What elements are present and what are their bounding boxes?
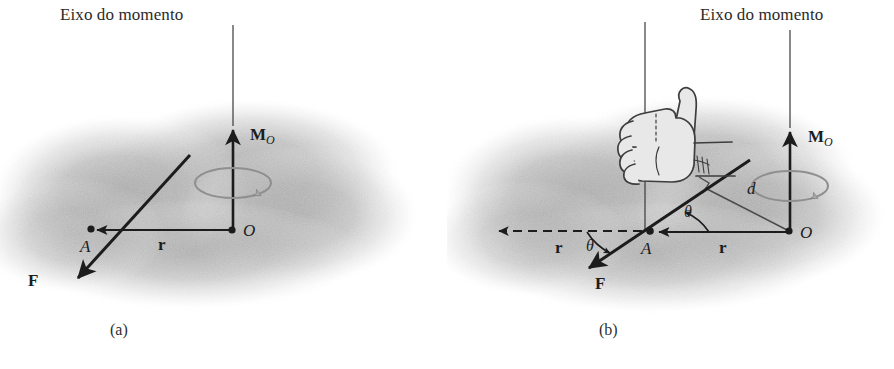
point-a-label-a: A bbox=[80, 238, 90, 255]
panel-a-graphics bbox=[0, 0, 447, 369]
point-a-label-b: A bbox=[641, 240, 651, 257]
panel-a: Eixo do momento MO F r A O (a) bbox=[0, 0, 447, 369]
point-a-marker bbox=[646, 227, 654, 235]
moment-vector-label-b: MO bbox=[808, 128, 833, 148]
panel-a-caption: (a) bbox=[110, 322, 128, 338]
shaded-plane bbox=[0, 98, 420, 310]
moment-vector-label-a: MO bbox=[250, 126, 275, 146]
position-vector-label-b: r bbox=[719, 239, 727, 256]
force-vector-label-b: F bbox=[595, 275, 605, 292]
point-o-label-b: O bbox=[800, 224, 812, 241]
force-vector-label-a: F bbox=[28, 272, 38, 289]
point-o-marker bbox=[785, 227, 792, 234]
point-o-marker bbox=[228, 226, 235, 233]
moment-arm-label-b: d bbox=[747, 180, 756, 197]
moment-vector-symbol-a: M bbox=[250, 125, 266, 144]
point-a-marker bbox=[87, 225, 94, 232]
position-vector-label-a: r bbox=[158, 236, 166, 253]
axis-title-a: Eixo do momento bbox=[60, 6, 183, 23]
moment-vector-subscript-a: O bbox=[266, 133, 275, 147]
moment-axis-figure: Eixo do momento MO F r A O (a) bbox=[0, 0, 894, 369]
axis-title-b: Eixo do momento bbox=[700, 6, 823, 23]
moment-vector-symbol-b: M bbox=[808, 127, 824, 146]
panel-b-caption: (b) bbox=[599, 322, 618, 338]
panel-b-graphics bbox=[447, 0, 894, 369]
position-vector-dashed-label-b: r bbox=[555, 239, 563, 256]
panel-b: Eixo do momento MO F r r A O d θ θ (b) bbox=[447, 0, 894, 369]
point-o-label-a: O bbox=[243, 222, 255, 239]
angle-theta-lower-label-b: θ bbox=[586, 238, 594, 254]
moment-vector-subscript-b: O bbox=[824, 135, 833, 149]
angle-theta-upper-label-b: θ bbox=[684, 204, 692, 220]
